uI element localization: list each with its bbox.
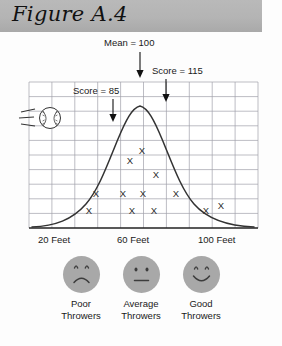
happy-face-icon [183, 256, 220, 293]
figure-title-banner: Figure A.4 [0, 0, 262, 32]
scatter-x-mark: X [140, 188, 147, 199]
sad-face-icon [63, 256, 100, 293]
scatter-x-mark: X [93, 188, 100, 199]
annotation-mean-label: Mean = 100 [104, 37, 154, 48]
page-title: Figure A.4 [12, 2, 128, 26]
bell-curve-chart: Mean = 100 Score = 85 Score = 115 X X X [0, 32, 282, 252]
neutral-face-icon [123, 256, 160, 293]
scatter-x-mark: X [129, 205, 136, 216]
scatter-x-mark: X [151, 205, 158, 216]
scatter-x-mark: X [86, 205, 93, 216]
scatter-x-mark: X [120, 188, 127, 199]
scatter-x-mark: X [218, 200, 225, 211]
annotation-mean: Mean = 100 [104, 37, 154, 78]
x-tick-label-60: 60 Feet [117, 234, 150, 245]
legend-caption-good: Good Throwers [162, 298, 240, 321]
chart-container: Mean = 100 Score = 85 Score = 115 X X X [0, 32, 282, 252]
legend-item-good-throwers: Good Throwers [162, 256, 240, 321]
scatter-x-mark: X [139, 145, 146, 156]
x-tick-label-100: 100 Feet [198, 234, 236, 245]
scatter-x-mark: X [127, 155, 134, 166]
annotation-score-85-label: Score = 85 [73, 85, 119, 96]
scatter-x-mark: X [173, 188, 180, 199]
throwers-legend: Poor Throwers Average Throwers [0, 252, 282, 346]
scatter-x-mark: X [153, 169, 160, 180]
x-axis-tick-labels: 20 Feet 60 Feet 100 Feet [38, 234, 236, 245]
scatter-x-mark: X [203, 205, 210, 216]
x-tick-label-20: 20 Feet [38, 234, 71, 245]
annotation-score-115-label: Score = 115 [152, 65, 203, 76]
figure-root: Figure A.4 [0, 0, 282, 346]
